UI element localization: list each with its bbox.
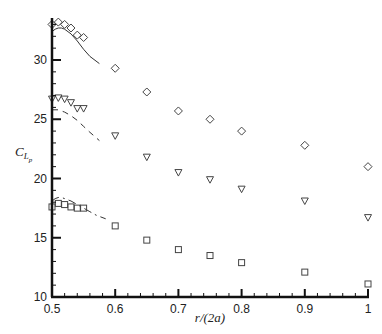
square-marker-icon: [81, 205, 87, 211]
x-tick-label: 0.9: [296, 302, 313, 316]
y-tick-label: 25: [34, 112, 48, 126]
square-marker-icon: [55, 200, 61, 206]
chart: 0.50.60.70.80.91 1015202530 r/(2a) CLp: [0, 0, 382, 334]
dashed-curve: [52, 110, 99, 141]
y-ticks: 1015202530: [34, 24, 61, 304]
y-tick-label: 20: [34, 172, 48, 186]
diamond-marker-icon: [238, 127, 246, 135]
y-tick-label: 15: [34, 231, 48, 245]
triangle-marker-icon: [175, 170, 182, 177]
y-tick-label: 30: [34, 53, 48, 67]
axes: [51, 18, 369, 297]
square-marker-icon: [112, 223, 118, 229]
x-tick-label: 0.5: [44, 302, 61, 316]
diamond-marker-icon: [174, 107, 182, 115]
diamond-marker-icon: [206, 115, 214, 123]
square-marker-icon: [239, 260, 245, 266]
diamond-marker-icon: [143, 88, 151, 96]
triangle-marker-icon: [112, 133, 119, 140]
square-marker-icon: [175, 247, 181, 253]
square-marker-icon: [207, 253, 213, 259]
y-axis-label: CLp: [15, 144, 33, 164]
triangle-marker-icon: [80, 106, 87, 113]
x-axis-label: r/(2a): [195, 310, 225, 325]
triangle-marker-icon: [301, 198, 308, 205]
square-marker-icon: [62, 202, 68, 208]
square-marker-icon: [365, 281, 371, 287]
diamond-marker-icon: [364, 163, 372, 171]
triangle-marker-icon: [74, 106, 81, 113]
triangle-marker-icon: [238, 186, 245, 193]
square-marker-icon: [144, 237, 150, 243]
triangle-marker-icon: [143, 154, 150, 161]
triangle-marker-icon: [207, 177, 214, 184]
plot-lines: [52, 28, 106, 219]
diamond-marker-icon: [111, 64, 119, 72]
x-tick-label: 0.6: [107, 302, 124, 316]
x-tick-label: 0.8: [233, 302, 250, 316]
diamond-marker-icon: [301, 141, 309, 149]
triangle-marker-icon: [365, 215, 372, 222]
y-tick-label: 10: [34, 290, 48, 304]
square-marker-icon: [68, 204, 74, 210]
x-tick-label: 0.7: [170, 302, 187, 316]
square-marker-icon: [302, 269, 308, 275]
x-tick-label: 1: [365, 302, 372, 316]
plot-markers: [48, 18, 372, 287]
